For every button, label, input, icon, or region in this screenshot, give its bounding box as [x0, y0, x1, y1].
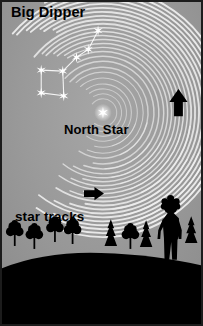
hill-shape	[2, 253, 201, 324]
label-north-star: North Star	[64, 123, 129, 136]
sky-canvas	[2, 2, 201, 324]
label-big-dipper: Big Dipper	[11, 5, 85, 20]
label-star-tracks: star tracks	[15, 210, 84, 224]
star-trails-diagram: Big Dipper North Star star tracks	[0, 0, 203, 326]
north-star-marker	[94, 104, 112, 122]
